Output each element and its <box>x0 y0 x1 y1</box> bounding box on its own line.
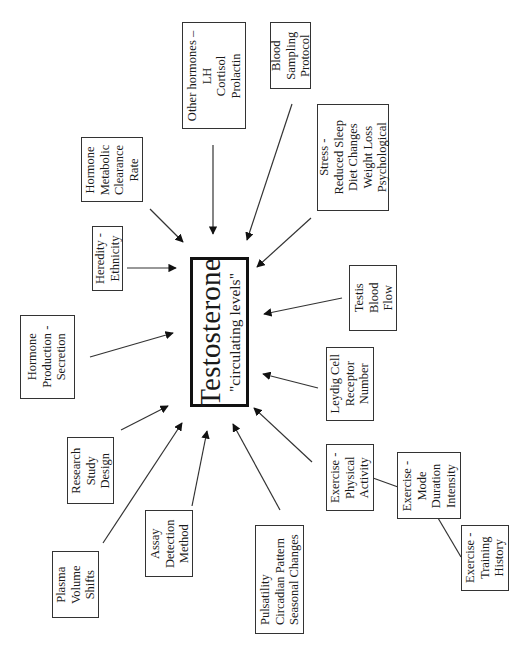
node-text: Leydig Cell <box>328 354 343 413</box>
node-exercise-mode: Exercise - Mode Duration Intensity <box>397 452 461 519</box>
node-text: Volume <box>68 565 83 604</box>
node-text: Shifts <box>83 565 98 604</box>
node-text: Prolactin <box>229 30 244 120</box>
node-text: Duration <box>429 460 444 510</box>
node-text: Flow <box>380 283 395 314</box>
node-heredity: Heredity - Ethnicity <box>92 226 123 291</box>
node-hormone-production: Hormone Production - Secretion <box>20 315 75 399</box>
node-exercise-physical: Exercise - Physical Activity <box>326 444 374 511</box>
node-leydig-cell: Leydig Cell Receptor Number <box>326 347 374 421</box>
node-text: Intensity <box>443 460 458 510</box>
arrow-hormone-clearance <box>150 209 183 242</box>
arrow-testis <box>264 298 342 314</box>
node-text: Weight Loss <box>360 120 375 195</box>
node-text: Design <box>98 448 113 494</box>
arrow-leydig <box>263 374 318 388</box>
node-text: Protocol <box>298 32 313 80</box>
node-blood-sampling: Blood Sampling Protocol <box>270 22 311 89</box>
node-text: Plasma <box>54 565 69 604</box>
arrow-exercise-physical <box>254 408 312 462</box>
center-title: Testosterone <box>195 258 226 407</box>
node-text: Sampling <box>283 32 298 80</box>
node-text: Blood <box>366 283 381 314</box>
node-text: Receptor <box>343 354 358 413</box>
node-text: Ethnicity <box>108 233 123 284</box>
node-text: Blood <box>269 32 284 80</box>
node-testis-blood-flow: Testis Blood Flow <box>349 265 397 331</box>
node-pulsatility: Pulsatility Circadian Pattern Seasonal C… <box>255 525 304 634</box>
node-text: Secretion <box>55 326 70 388</box>
link-exercise-physical-mode <box>373 478 398 487</box>
node-text: Other hormones – <box>185 30 200 120</box>
node-text: Cortisol <box>214 30 229 120</box>
node-research-design: Research Study Design <box>67 437 114 504</box>
node-text: Testis <box>351 283 366 314</box>
node-text: Method <box>176 519 191 568</box>
node-text: Metabolic <box>98 144 113 195</box>
arrow-assay <box>192 431 207 506</box>
node-text: Clearance <box>112 144 127 195</box>
node-text: Circadian Pattern <box>272 534 287 625</box>
center-node-testosterone: Testosterone "circulating levels" <box>190 257 249 407</box>
node-text: Detection <box>162 519 177 568</box>
arrow-stress <box>257 218 311 267</box>
node-text: Research <box>69 448 84 494</box>
node-hormone-clearance: Hormone Metabolic Clearance Rate <box>81 137 143 202</box>
node-text: Physical <box>343 452 358 502</box>
node-text: Diet Changes <box>346 120 361 195</box>
node-text: Exercise - <box>400 460 415 510</box>
node-text: Mode <box>414 460 429 510</box>
node-text: Heredity - <box>93 233 108 284</box>
node-text: Pulsatility <box>258 534 273 625</box>
arrow-research <box>121 406 168 430</box>
node-text: Seasonal Changes <box>287 534 302 625</box>
node-stress: Stress - Reduced Sleep Diet Changes Weig… <box>317 104 389 211</box>
node-text: LH <box>200 30 215 120</box>
node-text: Assay <box>147 519 162 568</box>
arrow-hormone-production <box>90 333 173 357</box>
node-text: Hormone <box>83 144 98 195</box>
center-subtitle: "circulating levels" <box>226 258 244 407</box>
node-text: Reduced Sleep <box>331 120 346 195</box>
node-text: Activity <box>357 452 372 502</box>
node-other-hormones: Other hormones – LH Cortisol Prolactin <box>182 22 246 129</box>
node-text: Psychological <box>375 120 390 195</box>
node-text: Exercise - <box>328 452 343 502</box>
node-text: Training <box>478 533 493 583</box>
node-exercise-training: Exercise - Training History <box>461 525 509 591</box>
node-plasma-volume: Plasma Volume Shifts <box>52 551 99 618</box>
node-text: Number <box>357 354 372 413</box>
node-text: History <box>492 533 507 583</box>
node-assay-method: Assay Detection Method <box>145 510 193 577</box>
node-text: Stress - <box>317 120 332 195</box>
arrow-blood-sampling <box>247 104 292 240</box>
arrow-pulsatility <box>233 424 280 510</box>
node-text: Hormone <box>26 326 41 388</box>
node-text: Production - <box>40 326 55 388</box>
node-text: Study <box>83 448 98 494</box>
node-text: Rate <box>127 144 142 195</box>
node-text: Exercise - <box>463 533 478 583</box>
link-exercise-mode-training <box>438 518 461 557</box>
